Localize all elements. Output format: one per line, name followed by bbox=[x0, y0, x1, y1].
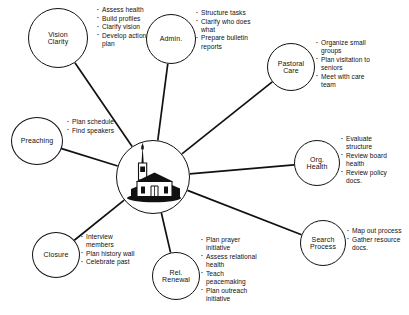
bullet-item: Interview members bbox=[81, 233, 135, 250]
edge-hub-to-pastoral-care bbox=[182, 82, 272, 154]
bullet-item: Evaluate structure bbox=[341, 135, 387, 152]
bullet-list-org-health: Evaluate structureReview board healthRev… bbox=[341, 135, 387, 185]
edge-hub-to-preaching bbox=[61, 148, 118, 166]
bullet-item: Meet with care team bbox=[316, 73, 370, 90]
bullets-preaching: Plan scheduleFind speakers bbox=[67, 118, 114, 135]
bullet-list-pastoral-care: Organize small groupsPlan visitation to … bbox=[316, 39, 370, 89]
bullet-item: Plan outreach initiative bbox=[201, 287, 257, 304]
edge-hub-to-rel-renewal bbox=[161, 213, 170, 253]
bullets-pastoral-care: Organize small groupsPlan visitation to … bbox=[316, 39, 370, 90]
edge-hub-to-search-process bbox=[187, 190, 301, 234]
bullet-item: Prepare bulletin reports bbox=[196, 34, 251, 51]
node-rel-renewal[interactable]: Rel. Renewal bbox=[152, 252, 200, 300]
bullet-list-search-process: Map out processGather resource docs. bbox=[347, 227, 402, 252]
node-pastoral-care[interactable]: Pastoral Care bbox=[267, 43, 315, 91]
church-building-icon bbox=[117, 141, 190, 214]
node-label-org-health: Org. Health bbox=[307, 156, 328, 171]
edge-hub-to-org-health bbox=[190, 165, 294, 174]
bullet-item: Map out process bbox=[347, 227, 402, 235]
bullet-item: Assess relational health bbox=[201, 253, 257, 270]
node-preaching[interactable]: Preaching bbox=[11, 117, 63, 165]
bullet-item: Clarify who does what bbox=[196, 18, 251, 35]
node-admin[interactable]: Admin. bbox=[146, 14, 196, 64]
bullet-list-vision-clarity: Assess healthBuild profilesClarify visio… bbox=[97, 6, 146, 48]
bullet-item: Assess health bbox=[97, 6, 146, 14]
bullet-item: Organize small groups bbox=[316, 39, 370, 56]
bullet-item: Plan visitation to seniors bbox=[316, 56, 370, 73]
bullet-item: Review policy docs. bbox=[341, 169, 387, 186]
bullet-item: Plan schedule bbox=[67, 118, 114, 126]
bullets-admin: Structure tasksClarify who does whatPrep… bbox=[196, 9, 251, 51]
node-search-process[interactable]: Search Process bbox=[300, 220, 346, 266]
node-label-admin: Admin. bbox=[160, 35, 182, 42]
node-vision-clarity[interactable]: Vision Clarity bbox=[28, 8, 88, 68]
bullet-item: Plan prayer initiative bbox=[201, 236, 257, 253]
diagram-canvas: Vision ClarityAssess healthBuild profile… bbox=[0, 0, 409, 315]
node-closure[interactable]: Closure bbox=[32, 232, 80, 278]
bullet-item: Review board health bbox=[341, 152, 387, 169]
bullet-list-closure: Interview membersPlan history wallCelebr… bbox=[81, 233, 135, 267]
node-label-search-process: Search Process bbox=[310, 236, 336, 251]
node-label-closure: Closure bbox=[44, 251, 69, 258]
node-label-pastoral-care: Pastoral Care bbox=[278, 60, 304, 75]
bullet-item: Clarify vision bbox=[97, 23, 146, 31]
hub-church-node[interactable] bbox=[116, 140, 190, 214]
bullets-closure: Interview membersPlan history wallCelebr… bbox=[81, 233, 135, 267]
bullet-item: Develop action plan bbox=[97, 32, 146, 49]
bullets-rel-renewal: Plan prayer initiativeAssess relational … bbox=[201, 236, 257, 304]
bullet-item: Plan history wall bbox=[81, 250, 135, 258]
node-org-health[interactable]: Org. Health bbox=[294, 140, 340, 186]
bullet-list-rel-renewal: Plan prayer initiativeAssess relational … bbox=[201, 236, 257, 303]
bullet-list-preaching: Plan scheduleFind speakers bbox=[67, 118, 114, 135]
node-label-vision-clarity: Vision Clarity bbox=[48, 31, 69, 46]
edge-hub-to-admin bbox=[158, 64, 168, 141]
bullet-item: Gather resource docs. bbox=[347, 236, 402, 253]
bullets-vision-clarity: Assess healthBuild profilesClarify visio… bbox=[97, 6, 146, 49]
bullet-item: Celebrate past bbox=[81, 258, 135, 266]
bullet-item: Build profiles bbox=[97, 15, 146, 23]
bullets-org-health: Evaluate structureReview board healthRev… bbox=[341, 135, 387, 186]
bullets-search-process: Map out processGather resource docs. bbox=[347, 227, 402, 252]
node-label-preaching: Preaching bbox=[21, 137, 53, 144]
node-label-rel-renewal: Rel. Renewal bbox=[162, 269, 190, 284]
bullet-item: Structure tasks bbox=[196, 9, 251, 17]
bullet-item: Find speakers bbox=[67, 127, 114, 135]
bullet-item: Teach peacemaking bbox=[201, 270, 257, 287]
bullet-list-admin: Structure tasksClarify who does whatPrep… bbox=[196, 9, 251, 51]
